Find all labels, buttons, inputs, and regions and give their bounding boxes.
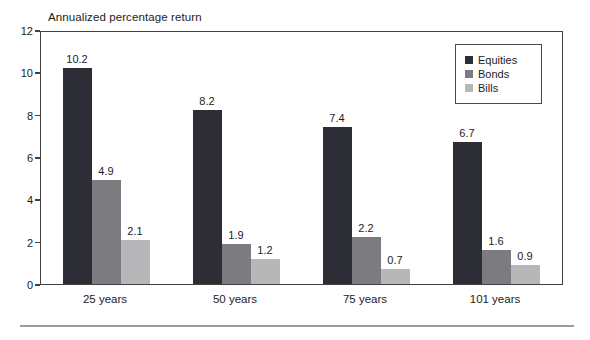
x-category-label: 75 years (300, 293, 430, 305)
legend: EquitiesBondsBills (455, 44, 542, 104)
legend-item-equities: Equities (465, 54, 531, 66)
bar-bills: 0.9 (511, 265, 540, 284)
bar-bills: 2.1 (121, 240, 150, 284)
legend-swatch-icon (465, 70, 473, 78)
bar-value-label: 2.2 (358, 222, 373, 234)
bar-value-label: 1.9 (228, 229, 243, 241)
bar-value-label: 1.6 (488, 235, 503, 247)
legend-label: Equities (478, 54, 517, 66)
plot-area: 10.24.92.18.21.91.27.42.20.76.71.60.9 Eq… (40, 31, 563, 285)
chart-title: Annualized percentage return (48, 11, 202, 23)
legend-label: Bills (478, 82, 498, 94)
bar-value-label: 6.7 (459, 127, 474, 139)
bar-group-75-years: 7.42.20.7 (301, 32, 431, 284)
bar-value-label: 0.7 (387, 254, 402, 266)
bar-equities: 7.4 (323, 127, 352, 284)
bar-bonds: 1.6 (482, 250, 511, 284)
bar-chart-figure: Annualized percentage return 024681012 1… (0, 0, 590, 340)
x-axis-labels: 25 years50 years75 years101 years (40, 293, 563, 309)
bar-value-label: 0.9 (517, 250, 532, 262)
x-category-label: 50 years (170, 293, 300, 305)
bar-row: 8.21.91.2 (171, 32, 301, 284)
legend-swatch-icon (465, 56, 473, 64)
x-category-label: 101 years (430, 293, 560, 305)
bar-value-label: 2.1 (127, 225, 142, 237)
y-tick-label: 12 (7, 24, 33, 38)
y-tick-label: 0 (7, 278, 33, 292)
bottom-rule (20, 325, 574, 327)
bar-equities: 8.2 (193, 110, 222, 284)
bar-bonds: 4.9 (92, 180, 121, 284)
bar-value-label: 8.2 (199, 95, 214, 107)
bar-bills: 0.7 (381, 269, 410, 284)
bar-group-50-years: 8.21.91.2 (171, 32, 301, 284)
legend-label: Bonds (478, 68, 509, 80)
y-tick-label: 10 (7, 66, 33, 80)
y-tick-label: 2 (7, 236, 33, 250)
y-tick-label: 4 (7, 193, 33, 207)
y-tick-label: 6 (7, 151, 33, 165)
legend-swatch-icon (465, 84, 473, 92)
bar-bonds: 1.9 (222, 244, 251, 284)
legend-item-bills: Bills (465, 82, 531, 94)
bar-equities: 6.7 (453, 142, 482, 284)
bar-equities: 10.2 (63, 68, 92, 284)
bar-value-label: 7.4 (329, 112, 344, 124)
bar-value-label: 4.9 (98, 165, 113, 177)
bar-value-label: 10.2 (66, 53, 87, 65)
bar-group-25-years: 10.24.92.1 (41, 32, 171, 284)
bar-bonds: 2.2 (352, 237, 381, 284)
bar-row: 10.24.92.1 (41, 32, 171, 284)
y-tick-label: 8 (7, 109, 33, 123)
bar-value-label: 1.2 (257, 244, 272, 256)
legend-item-bonds: Bonds (465, 68, 531, 80)
bar-row: 7.42.20.7 (301, 32, 431, 284)
bar-bills: 1.2 (251, 259, 280, 284)
x-category-label: 25 years (40, 293, 170, 305)
